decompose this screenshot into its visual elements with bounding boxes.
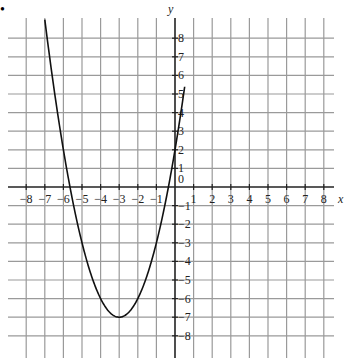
x-tick-label: −4 <box>94 192 107 206</box>
y-tick-label: −5 <box>178 273 191 287</box>
y-tick-label: −2 <box>178 217 191 231</box>
parabola-chart: −8−7−6−5−4−3−2−11234567887654321−1−2−3−4… <box>0 0 344 360</box>
x-tick-label: −8 <box>20 192 33 206</box>
x-tick-label: −2 <box>131 192 144 206</box>
x-tick-label: 6 <box>284 192 290 206</box>
x-tick-label: 5 <box>265 192 271 206</box>
x-tick-label: −1 <box>150 192 163 206</box>
x-tick-label: 4 <box>246 192 252 206</box>
x-tick-label: −5 <box>76 192 89 206</box>
x-tick-label: −6 <box>57 192 70 206</box>
y-tick-label: 7 <box>178 50 184 64</box>
x-tick-label: 3 <box>228 192 234 206</box>
grid <box>8 18 334 358</box>
y-tick-label: −1 <box>178 199 191 213</box>
x-tick-label: 7 <box>302 192 308 206</box>
x-axis-label: x <box>337 192 344 206</box>
x-tick-label: −3 <box>113 192 126 206</box>
y-tick-label: −4 <box>178 254 191 268</box>
x-tick-label: 1 <box>191 192 197 206</box>
x-tick-label: 2 <box>209 192 215 206</box>
y-tick-label: −7 <box>178 310 191 324</box>
origin-label: 0 <box>178 172 184 186</box>
x-tick-label: −7 <box>38 192 51 206</box>
x-tick-label: 8 <box>321 192 327 206</box>
y-tick-label: 8 <box>178 31 184 45</box>
y-tick-label: −8 <box>178 329 191 343</box>
y-tick-label: 6 <box>178 68 184 82</box>
y-tick-label: −3 <box>178 236 191 250</box>
y-axis-label: y <box>167 2 174 16</box>
y-tick-label: −6 <box>178 292 191 306</box>
y-tick-label: 2 <box>178 143 184 157</box>
